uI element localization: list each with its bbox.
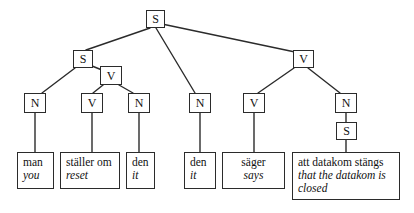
edge-right-v-to-v2 [258, 68, 294, 93]
leaf-box-att-datakom-stangs: att datakom stängs that the datakom is c… [292, 152, 400, 200]
node-left-s: S [73, 50, 93, 68]
leaf-gloss-text: you [23, 169, 49, 182]
node-n4: N [335, 93, 357, 113]
edge-root-to-middle-n [156, 28, 195, 93]
node-n2: N [128, 93, 150, 113]
leaf-box-staller-om: ställer om reset [60, 152, 120, 189]
edge-root-to-left-s [86, 28, 150, 50]
leaf-gloss-text: that the datakom is closed [298, 169, 395, 195]
leaf-box-sager: säger says [222, 152, 285, 189]
leaf-gloss-text: it [132, 169, 150, 182]
leaf-source-text: ställer om [66, 156, 115, 169]
node-right-v: V [293, 50, 314, 68]
leaf-box-den-1: den it [126, 152, 155, 189]
leaf-source-text: den [132, 156, 150, 169]
leaf-box-man: man you [17, 152, 54, 189]
leaf-gloss-text: it [190, 169, 211, 182]
node-root-s: S [146, 10, 165, 28]
leaf-source-text: man [23, 156, 49, 169]
syntax-tree-figure: S S V V N V N N V N S man you ställer om… [0, 0, 414, 213]
node-n3: N [189, 93, 211, 113]
leaf-source-text: att datakom stängs [298, 156, 395, 169]
edge-right-v-to-n4 [308, 68, 340, 93]
node-left-v: V [100, 66, 122, 85]
leaf-box-den-2: den it [184, 152, 216, 189]
node-embedded-s: S [336, 122, 357, 140]
edge-root-to-right-v [162, 24, 295, 52]
node-n1: N [24, 93, 46, 113]
leaf-gloss-text: says [225, 169, 282, 182]
edge-left-s-to-n1 [42, 68, 75, 93]
node-v1: V [81, 93, 103, 113]
edge-left-v-to-n2 [119, 85, 133, 93]
node-v2: V [243, 93, 265, 113]
leaf-source-text: den [190, 156, 211, 169]
edge-left-v-to-v1 [93, 85, 103, 93]
leaf-gloss-text: reset [66, 169, 115, 182]
leaf-source-text: säger [225, 156, 282, 169]
